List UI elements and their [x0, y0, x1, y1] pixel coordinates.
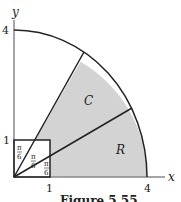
y-tick-1: 1	[3, 134, 10, 147]
x-tick-4: 4	[144, 182, 151, 195]
angle-label-1: π 6	[17, 144, 22, 161]
svg-text:6: 6	[17, 153, 22, 161]
svg-text:6: 6	[44, 169, 49, 177]
region-label-r: R	[115, 143, 125, 157]
region-label-c: C	[84, 94, 93, 108]
angle-label-3: π 6	[44, 160, 49, 177]
svg-text:6: 6	[31, 162, 36, 170]
svg-text:π: π	[17, 144, 22, 152]
x-tick-1: 1	[46, 182, 53, 195]
figure-caption: Figure 5.55	[60, 194, 138, 202]
y-axis-label: y	[11, 5, 19, 19]
angle-label-2: π 6	[31, 153, 36, 170]
x-axis-label: x	[168, 170, 175, 184]
y-tick-4: 4	[2, 24, 9, 37]
svg-text:π: π	[31, 153, 36, 161]
polar-region-diagram: y x 4 1 1 4 C R π 6 π 6 π 6 Figure 5.55	[0, 0, 181, 202]
svg-text:π: π	[44, 160, 49, 168]
